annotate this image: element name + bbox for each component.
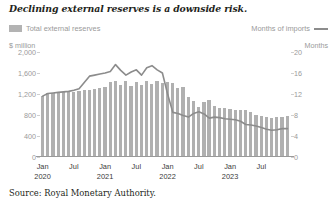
right-tick-mark bbox=[291, 73, 294, 74]
x-tick-month: Jan bbox=[224, 162, 236, 171]
months-of-imports-line bbox=[43, 65, 288, 131]
x-tick-label: Jul bbox=[194, 162, 203, 172]
right-tick-label: 16 bbox=[294, 70, 302, 77]
x-tick-month: Jan bbox=[99, 162, 111, 171]
left-tick-label: 2,000 bbox=[18, 49, 36, 56]
x-tick-label: Jan2022 bbox=[159, 162, 175, 182]
right-tick-mark bbox=[291, 115, 294, 116]
x-tick-label: Jan2021 bbox=[97, 162, 113, 182]
x-tick-label: Jul bbox=[257, 162, 266, 172]
left-tick-label: 1,200 bbox=[18, 91, 36, 98]
x-tick-label: Jan2023 bbox=[222, 162, 238, 182]
right-tick-label: 12 bbox=[294, 91, 302, 98]
legend-label-bars: Total external reserves bbox=[26, 24, 100, 33]
x-tick-month: Jul bbox=[257, 162, 266, 171]
left-tick-mark bbox=[37, 157, 40, 158]
chart-title: Declining external reserves is a downsid… bbox=[9, 3, 247, 14]
x-tick-year: 2022 bbox=[159, 172, 175, 182]
x-tick-month: Jul bbox=[132, 162, 141, 171]
right-tick-label: 4 bbox=[294, 133, 298, 140]
x-tick-month: Jul bbox=[69, 162, 78, 171]
x-tick-month: Jan bbox=[37, 162, 49, 171]
right-tick-mark bbox=[291, 157, 294, 158]
legend-item-bars: Total external reserves bbox=[9, 24, 100, 33]
right-tick-mark bbox=[291, 94, 294, 95]
right-tick-mark bbox=[291, 136, 294, 137]
x-tick-label: Jan2020 bbox=[34, 162, 50, 182]
right-tick-mark bbox=[291, 52, 294, 53]
x-tick-label: Jul bbox=[132, 162, 141, 172]
left-tick-label: 0 bbox=[32, 154, 36, 161]
x-tick-month: Jul bbox=[194, 162, 203, 171]
source-note: Source: Royal Monetary Authority. bbox=[9, 188, 156, 198]
left-tick-label: 1,600 bbox=[18, 70, 36, 77]
line-swatch-icon bbox=[314, 28, 328, 30]
plot-area: 2,0001,6001,2008004000 201612840 bbox=[40, 52, 290, 157]
x-tick-year: 2023 bbox=[222, 172, 238, 182]
left-tick-label: 400 bbox=[24, 133, 36, 140]
axis-baseline bbox=[36, 156, 294, 157]
right-tick-label: 0 bbox=[294, 154, 298, 161]
right-tick-label: 20 bbox=[294, 49, 302, 56]
right-axis-unit: Months bbox=[304, 41, 328, 50]
chart-figure: Declining external reserves is a downsid… bbox=[0, 0, 334, 203]
x-tick-month: Jan bbox=[162, 162, 174, 171]
chart-legend: Total external reserves Months of import… bbox=[9, 24, 328, 36]
right-tick-label: 8 bbox=[294, 112, 298, 119]
legend-item-line: Months of imports bbox=[251, 24, 328, 33]
bar-swatch-icon bbox=[9, 25, 22, 32]
x-tick-year: 2020 bbox=[34, 172, 50, 182]
x-tick-label: Jul bbox=[69, 162, 78, 172]
x-tick-year: 2021 bbox=[97, 172, 113, 182]
legend-label-line: Months of imports bbox=[251, 24, 310, 33]
line-series bbox=[40, 52, 290, 157]
left-tick-label: 800 bbox=[24, 112, 36, 119]
